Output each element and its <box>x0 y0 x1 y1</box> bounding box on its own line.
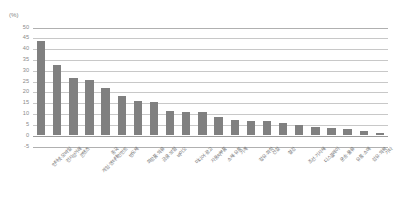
bar <box>134 101 142 136</box>
y-axis-tick-label: 30 <box>23 68 29 74</box>
x-axis-tick-label: 조선·기자재 <box>309 147 328 166</box>
bar <box>69 78 77 135</box>
bar <box>101 88 109 136</box>
bar <box>150 102 158 136</box>
x-axis-tick-label: 기계 <box>240 147 249 156</box>
bar <box>263 121 271 135</box>
y-axis-tick-label: 10 <box>23 111 29 117</box>
x-axis-tick-label: 반도체 <box>128 147 140 159</box>
bar <box>295 125 303 135</box>
x-axis-tick-label: 철강 <box>288 147 297 156</box>
x-axis-tick-label: 바이오 <box>177 147 189 159</box>
bar <box>182 112 190 135</box>
bar <box>343 129 351 135</box>
y-axis-tick-label: 45 <box>23 36 29 42</box>
bar <box>279 123 287 135</box>
x-axis-tick-label: 기타 <box>385 147 394 156</box>
x-axis-tick-label: 운송·물류 <box>340 147 356 163</box>
y-axis-tick-label: 20 <box>23 90 29 96</box>
bar-series <box>33 28 388 147</box>
x-axis-tick-label: 미디어·광고 <box>196 147 215 166</box>
x-axis-tick-label: 유통·소매 <box>356 147 372 163</box>
bar <box>376 133 384 135</box>
plot-area: 50454035302520151050-5 <box>33 28 388 147</box>
bar-chart: (%) 50454035302520151050-5 인터넷·모바일전자상거래콘… <box>0 0 396 201</box>
y-axis-tick-label: 5 <box>26 122 29 128</box>
bar <box>198 112 206 135</box>
y-axis-tick-label: 15 <box>23 100 29 106</box>
bar <box>311 127 319 136</box>
y-axis-tick-label: 40 <box>23 46 29 52</box>
bar <box>85 80 93 135</box>
bar <box>166 111 174 135</box>
bar <box>37 41 45 135</box>
bar <box>214 117 222 135</box>
bar <box>327 128 335 136</box>
bar <box>360 131 368 135</box>
bar <box>118 96 126 135</box>
x-axis-labels: 인터넷·모바일전자상거래콘텐츠게임·엔터테인먼트중국반도체화장품·의류금융·보험… <box>33 147 388 201</box>
bar <box>231 120 239 135</box>
y-axis-unit-label: (%) <box>9 11 19 18</box>
y-axis-tick-label: 25 <box>23 79 29 85</box>
bar <box>53 65 61 135</box>
bar <box>247 121 255 135</box>
y-axis-tick-label: 0 <box>26 133 29 139</box>
x-axis-tick-label: 소재·유통 <box>227 147 243 163</box>
x-axis-tick-label: 건설 <box>272 147 281 156</box>
y-axis-tick-label: -5 <box>24 144 29 150</box>
y-axis-tick-label: 50 <box>23 25 29 31</box>
y-axis-tick-label: 35 <box>23 57 29 63</box>
